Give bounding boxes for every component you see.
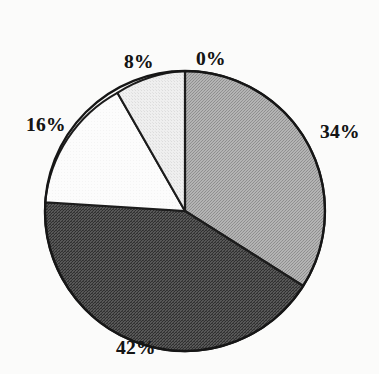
pie-vignette — [45, 71, 325, 351]
pie-chart-canvas — [0, 0, 379, 374]
pie-label-42: 42% — [116, 338, 156, 358]
pie-label-8: 8% — [124, 52, 154, 72]
pie-label-34: 34% — [320, 122, 360, 142]
pie-chart-figure: 0% 34% 42% 16% 8% — [0, 0, 379, 374]
pie-label-16: 16% — [26, 115, 66, 135]
pie-label-0: 0% — [196, 49, 226, 69]
